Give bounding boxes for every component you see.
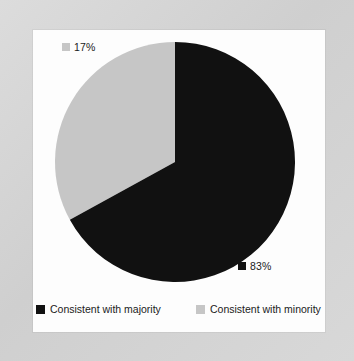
pie-chart-graphic: [33, 30, 325, 292]
legend-swatch-majority-icon: [36, 305, 45, 314]
pie-value-majority: 83%: [250, 260, 271, 272]
pie-value-minority: 17%: [74, 41, 95, 53]
pie-value-label-majority: 83%: [238, 260, 271, 272]
legend-item-minority[interactable]: Consistent with minority: [196, 303, 321, 315]
legend-swatch-minority-icon: [196, 305, 205, 314]
pie-value-label-minority: 17%: [62, 41, 95, 53]
legend-label-majority: Consistent with majority: [50, 303, 161, 315]
chart-legend: Consistent with majority Consistent with…: [33, 296, 325, 322]
majority-swatch-icon: [238, 262, 246, 270]
minority-swatch-icon: [62, 43, 70, 51]
pie-chart-panel: 17% 83% Consistent with majority Consist…: [33, 30, 325, 332]
legend-label-minority: Consistent with minority: [210, 303, 321, 315]
legend-item-majority[interactable]: Consistent with majority: [36, 303, 161, 315]
pie-plot-area: 17% 83%: [33, 30, 325, 292]
figure-frame: 17% 83% Consistent with majority Consist…: [0, 0, 354, 361]
